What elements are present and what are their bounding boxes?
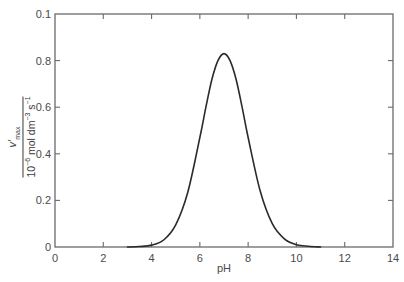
- y-axis-title-numerator: v′max: [7, 96, 22, 177]
- x-tick-label: 6: [197, 252, 203, 264]
- y-tick-label: 0.1: [36, 8, 51, 20]
- y-tick-label: 0.8: [36, 55, 51, 67]
- x-tick-label: 14: [387, 252, 399, 264]
- y-tick-label: 0.2: [36, 194, 51, 206]
- y-axis-title: v′max 10−6 mol dm−3 s−1: [2, 82, 42, 192]
- x-tick-label: 0: [52, 252, 58, 264]
- data-curve: [127, 54, 320, 247]
- y-tick-label: 0: [45, 241, 51, 253]
- ph-activity-chart: 02468101214 00.20.40.60.80.1 pH: [0, 0, 404, 282]
- x-axis-title: pH: [217, 262, 231, 274]
- plot-frame: [55, 14, 393, 247]
- x-tick-label: 4: [149, 252, 155, 264]
- x-tick-label: 8: [245, 252, 251, 264]
- axis-ticks: [55, 14, 393, 247]
- x-tick-label: 2: [100, 252, 106, 264]
- x-tick-label: 12: [339, 252, 351, 264]
- y-axis-title-denominator: 10−6 mol dm−3 s−1: [22, 96, 37, 177]
- x-tick-label: 10: [290, 252, 302, 264]
